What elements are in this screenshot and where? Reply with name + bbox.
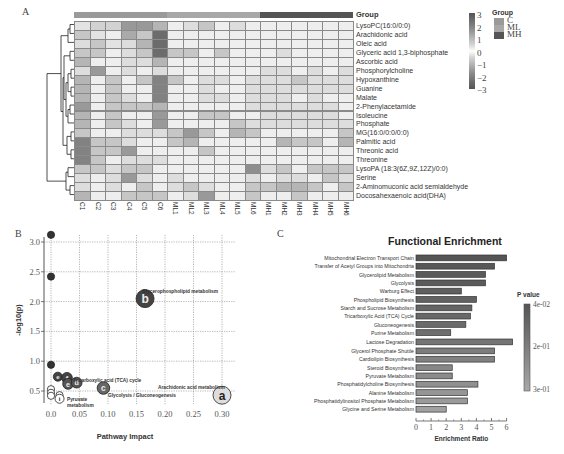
heatmap-cell [214, 191, 231, 201]
x-tick-label: 6 [505, 423, 509, 432]
group-bar-cell [136, 12, 152, 18]
group-bar-cell [291, 12, 307, 18]
enrichment-category-label: Phospholipid Biosynthesis [354, 297, 415, 303]
heatmap-row-label: Phosphorylcholine [356, 66, 413, 75]
enrichment-bar[interactable] [416, 288, 461, 294]
enrichment-category-label: Purine Metabolism [371, 330, 414, 336]
heatmap-row-label: MG(16:0/0:0/0:0) [356, 128, 409, 137]
enrichment-category-label: Steroid Biosynthesis [367, 365, 414, 371]
x-tick-label: 0.25 [186, 409, 201, 419]
enrichment-bar[interactable] [416, 313, 470, 319]
enrichment-bar[interactable] [416, 272, 485, 278]
group-bar-cell [338, 12, 354, 18]
y-tick-label: 0.5 [29, 386, 40, 396]
heatmap-row-label: Ascorbic acid [356, 57, 398, 66]
enrichment-bar[interactable] [416, 406, 446, 412]
heatmap-row-label: Hypoxanthine [356, 75, 399, 84]
y-tick-label: 2.5 [29, 267, 40, 277]
enrichment-category-label: Glycolysis [391, 280, 415, 286]
enrichment-bar[interactable] [416, 398, 467, 404]
enrichment-bar[interactable] [416, 297, 476, 303]
x-tick-label: 0.20 [158, 409, 173, 419]
point-letter: b [141, 292, 148, 306]
heatmap-colorbar [469, 13, 475, 89]
heatmap-column-label: C3 [110, 202, 117, 210]
heatmap-cell [276, 191, 293, 201]
heatmap-row-label: 2-Aminomuconic acid semialdehyde [356, 182, 468, 191]
enrichment-bar[interactable] [416, 365, 452, 371]
pathway-point[interactable] [47, 273, 54, 280]
enrichment-category-label: Phosphatidylinositol Phosphate Metabolis… [314, 398, 414, 404]
enrichment-category-label: Transfer of Acetyl Groups into Mitochond… [314, 263, 414, 269]
enrichment-bar[interactable] [416, 339, 513, 345]
enrichment-bar[interactable] [416, 305, 472, 311]
heatmap-cell [291, 191, 308, 201]
heatmap-cell [338, 191, 355, 201]
heatmap-column-label: MH5 [327, 202, 334, 216]
heatmap-row-label: LysoPC(16:0/0:0) [356, 21, 410, 30]
heatmap-row-label: Phosphate [356, 119, 389, 128]
group-bar-cell [276, 12, 292, 18]
heatmap-row-label: Docosahexaenoic acid(DHA) [356, 191, 446, 200]
group-bar-cell [74, 12, 90, 18]
enrichment-bar[interactable] [416, 390, 467, 396]
enrichment-bar[interactable] [416, 373, 452, 379]
enrichment-bar[interactable] [416, 280, 485, 286]
colorbar-tick-label: −3 [477, 86, 487, 95]
heatmap-row-label: 2-Phenylacetamide [356, 102, 416, 111]
heatmap-row-label: Threonine [356, 155, 388, 164]
enrichment-bar[interactable] [416, 348, 495, 354]
heatmap-cell [167, 191, 184, 201]
pathway-point[interactable] [47, 392, 54, 399]
enrichment-bar[interactable] [416, 255, 507, 261]
pathway-annotation: Glycolysis / Gluconeogenesis [108, 393, 176, 398]
heatmap-column-label: ML5 [234, 202, 241, 215]
enrichment-bar[interactable] [416, 356, 495, 362]
heatmap-column-label: MH6 [343, 202, 350, 216]
enrichment-bar[interactable] [416, 322, 466, 328]
enrichment-category-label: Mitochondrial Electron Transport Chain [324, 255, 414, 261]
heatmap-column-label: C6 [157, 202, 164, 210]
heatmap-row-label: LysoPA (18:3(6Z,9Z,12Z)/0:0) [356, 164, 448, 173]
heatmap-row-label: Oleic acid [356, 39, 387, 48]
group-legend-label: MH [507, 30, 522, 38]
heatmap-row-label: Glyceric acid 1,3-biphosphate [356, 48, 448, 57]
y-tick-label: 3.0 [29, 237, 40, 247]
group-bar-cell [183, 12, 199, 18]
heatmap-column-label: ML4 [219, 202, 226, 215]
group-bar-cell [260, 12, 276, 18]
heatmap-cell [183, 191, 200, 201]
enrichment-bar[interactable] [416, 330, 451, 336]
heatmap-cell [245, 191, 262, 201]
heatmap-row-label: Palmitic acid [356, 137, 395, 146]
group-bar-cell [245, 12, 261, 18]
heatmap-row-label: Isoleucine [356, 111, 388, 120]
group-bar-cell [105, 12, 121, 18]
enrichment-category-label: Glycerol Phosphate Shuttle [351, 348, 414, 354]
pathway-point[interactable] [47, 361, 54, 368]
enrichment-category-label: Phosphatidylcholine Biosynthesis [337, 381, 414, 387]
group-legend-swatch [494, 25, 504, 32]
pathway-annotation: Glycerophospholipid metabolism [142, 289, 218, 294]
group-bar-cell [307, 12, 323, 18]
heatmap-column-label: MH4 [312, 202, 319, 216]
x-tick-label: 0.30 [215, 409, 230, 419]
point-letter: e [66, 380, 70, 389]
pathway-point[interactable] [47, 231, 54, 238]
heatmap-cell [105, 191, 122, 201]
heatmap-column-label: MH3 [296, 202, 303, 216]
colorbar-tick-label: 3 [477, 11, 482, 20]
heatmap-column-label: ML2 [188, 202, 195, 215]
group-legend-swatch [494, 32, 504, 39]
enrichment-bar[interactable] [416, 263, 495, 269]
group-bar-cell [198, 12, 214, 18]
heatmap-cell [229, 191, 246, 201]
group-bar-cell [152, 12, 168, 18]
heatmap-cell [74, 191, 91, 201]
heatmap-cell [152, 191, 169, 201]
pvalue-tick-label: 2e-01 [533, 342, 550, 351]
heatmap-column-label: C2 [95, 202, 102, 210]
x-axis-label: Enrichment Ratio [434, 435, 488, 442]
enrichment-bar[interactable] [416, 381, 478, 387]
colorbar-tick-label: 0 [477, 49, 482, 58]
